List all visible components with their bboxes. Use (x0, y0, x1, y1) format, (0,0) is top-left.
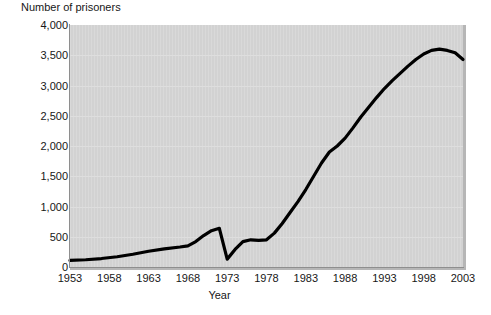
x-axis-tick-label: 1953 (50, 273, 90, 284)
y-axis-tick-label: 500 (4, 232, 68, 243)
x-axis-title-text: Year (208, 289, 230, 301)
y-axis-line (69, 24, 70, 268)
series-layer (70, 25, 463, 267)
y-axis-tick-label: 1,000 (4, 202, 68, 213)
x-axis-line (69, 267, 464, 268)
series-line-number-of-prisoners (70, 49, 463, 260)
x-axis-tick-label: 1998 (404, 273, 444, 284)
x-axis-tick-label: 1958 (89, 273, 129, 284)
x-axis-title: Year (0, 289, 491, 302)
x-axis-tick-label: 1978 (247, 273, 287, 284)
x-axis-tick-label: 1963 (129, 273, 169, 284)
y-axis-tick-label: 4,000 (4, 20, 68, 31)
y-axis-tick-labels: 4,0003,5003,0002,5002,0001,5001,0005000 (0, 0, 68, 315)
x-axis-tick-label: 2003 (443, 273, 483, 284)
x-axis-tick-label: 1968 (168, 273, 208, 284)
x-axis-tick-label: 1988 (325, 273, 365, 284)
x-axis-tick-label: 1973 (207, 273, 247, 284)
y-axis-tick-label: 3,000 (4, 81, 68, 92)
x-axis-tick-label: 1993 (364, 273, 404, 284)
prisoners-line-chart: Number of prisoners 4,0003,5003,0002,500… (0, 0, 491, 315)
y-axis-tick-label: 2,500 (4, 111, 68, 122)
y-axis-tick-label: 3,500 (4, 50, 68, 61)
y-axis-tick-label: 1,500 (4, 171, 68, 182)
y-axis-tick-label: 2,000 (4, 141, 68, 152)
x-axis-tick-label: 1983 (286, 273, 326, 284)
